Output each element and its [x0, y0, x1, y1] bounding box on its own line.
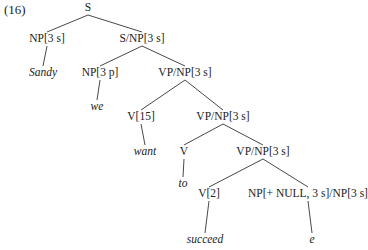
- tree-leaf: e: [309, 234, 314, 246]
- tree-leaf: Sandy: [29, 67, 57, 79]
- tree-node: S: [85, 2, 91, 14]
- tree-leaf: succeed: [187, 234, 223, 246]
- tree-edge: [308, 201, 312, 233]
- tree-leaf: want: [134, 146, 156, 158]
- tree-edge: [183, 159, 184, 177]
- tree-node: VP/NP[3 s]: [236, 146, 289, 158]
- tree-edge: [97, 80, 100, 100]
- tree-node: VP/NP[3 s]: [196, 111, 249, 123]
- tree-edge: [209, 159, 263, 187]
- tree-edge: [142, 46, 185, 66]
- tree-node: VP/NP[3 s]: [158, 67, 211, 79]
- tree-node: V[15]: [127, 111, 154, 123]
- tree-edge: [184, 124, 223, 145]
- tree-edge: [205, 201, 209, 233]
- tree-node: V: [180, 146, 188, 158]
- tree-edge: [141, 80, 185, 110]
- tree-edge: [43, 46, 47, 66]
- tree-edge: [100, 46, 142, 66]
- tree-edge: [223, 124, 263, 145]
- tree-leaf: we: [91, 101, 104, 113]
- tree-leaf: to: [179, 178, 188, 190]
- tree-edge: [141, 124, 145, 145]
- tree-node: NP[+ NULL, 3 s]/NP[3 s]: [248, 188, 368, 200]
- tree-edge: [47, 15, 88, 32]
- tree-edge: [185, 80, 223, 110]
- tree-edge: [263, 159, 308, 187]
- tree-node: NP[3 s]: [29, 33, 64, 45]
- tree-edge: [88, 15, 142, 32]
- tree-node: S/NP[3 s]: [119, 33, 164, 45]
- tree-node: V[2]: [198, 188, 220, 200]
- tree-node: NP[3 p]: [82, 67, 119, 79]
